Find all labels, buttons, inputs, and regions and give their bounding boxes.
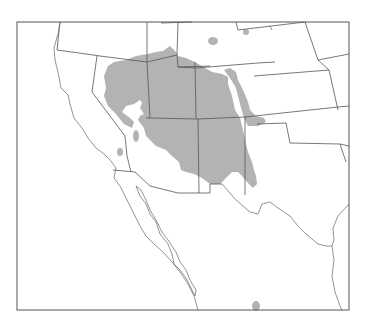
- range-spot: [208, 37, 218, 45]
- range-spot: [117, 148, 123, 156]
- coastline: [136, 186, 196, 296]
- state-border: [340, 144, 346, 162]
- state-border: [113, 170, 135, 172]
- state-border: [199, 184, 222, 193]
- state-border: [57, 22, 79, 53]
- state-border: [318, 54, 349, 60]
- coastline: [270, 26, 272, 30]
- state-border: [125, 136, 131, 172]
- range-spot: [133, 130, 139, 142]
- state-border: [236, 22, 238, 30]
- state-border: [258, 62, 275, 63]
- range-map: [0, 0, 375, 325]
- coastline: [332, 246, 342, 310]
- state-border: [254, 70, 329, 76]
- state-border: [338, 106, 349, 107]
- coastline: [222, 184, 349, 246]
- state-border: [135, 172, 199, 193]
- range-spot: [243, 29, 249, 35]
- state-border: [245, 107, 338, 117]
- state-border: [305, 22, 329, 70]
- state-border: [257, 123, 340, 144]
- state-border: [340, 144, 349, 146]
- state-border: [196, 63, 258, 68]
- state-border: [329, 70, 338, 110]
